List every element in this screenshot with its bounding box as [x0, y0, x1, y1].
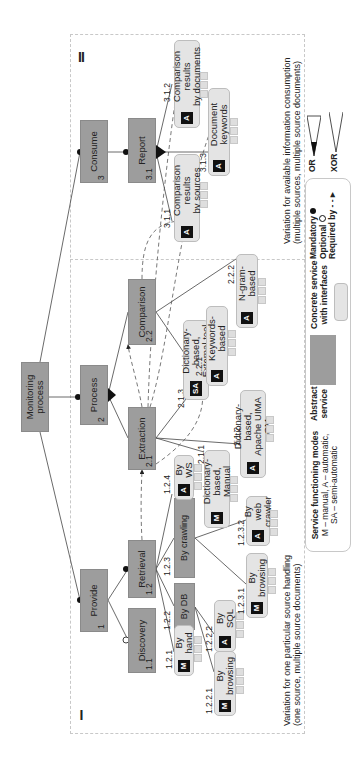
num-crawl-by-browsing: 1.2.3.1 — [236, 588, 246, 614]
service-retrieval: Retrieval 1.2 — [128, 540, 156, 598]
mode-badge: A — [247, 462, 259, 474]
concrete-doc-keywords: A Document keywords — [208, 88, 230, 176]
interfaces — [236, 612, 244, 638]
diagram-canvas: I II Variation for one particular source… — [0, 0, 360, 764]
mode-badge: SA — [190, 381, 202, 396]
concrete-ngram-based: A N-gram-based — [236, 254, 258, 328]
num-by-ws: 1.2.4 — [162, 475, 172, 494]
mode-badge: A — [181, 112, 193, 124]
legend-relations: Mandatory Optional Required by - - ▸ — [309, 192, 338, 259]
interfaces — [230, 118, 238, 144]
service-provide: Provide 1 — [80, 569, 108, 632]
service-report: Report 3.1 — [128, 118, 156, 183]
concrete-by-ws: A By WS — [174, 455, 194, 500]
legend-abstract: Abstract service — [310, 387, 329, 421]
concrete-keywords-based: A Keywords-based — [206, 306, 228, 386]
interfaces — [236, 668, 244, 694]
concrete-by-web-crawler: A By webcrawler — [246, 496, 270, 546]
service-process: Process 2 — [80, 365, 108, 425]
concrete-by-sql: A By SQL — [214, 600, 236, 652]
mode-badge: A — [241, 312, 253, 324]
concrete-crawl-by-browsing: M By browsing — [246, 553, 268, 618]
num-by-hand: 1.2.1 — [164, 650, 174, 669]
num-by-sql: 1.2.2.2 — [204, 626, 214, 652]
mode-badge: A — [252, 530, 264, 542]
legend-or: OR — [307, 159, 317, 172]
service-consume: Consume 3 — [80, 120, 108, 183]
mode-badge: A — [211, 370, 223, 382]
mode-badge: A — [213, 160, 225, 172]
service-by-crawling: By crawling — [174, 498, 195, 578]
legend-modes: Service functioning modes M – manual, A … — [311, 429, 340, 541]
mandatory-dot-icon — [310, 208, 316, 214]
mode-badge: M — [178, 660, 190, 672]
interfaces — [268, 568, 276, 594]
interfaces — [228, 330, 236, 356]
concrete-dict-manual: M Dictionary-based,Manual — [204, 450, 230, 528]
root-monitoring-process: Monitoring process — [21, 362, 49, 432]
mode-badge: A — [178, 484, 190, 496]
legend-abstract-swatch — [310, 335, 336, 385]
concrete-by-hand: M By hand — [174, 625, 194, 676]
required-arrow-icon: - - ▸ — [327, 192, 337, 207]
mode-badge: M — [211, 512, 223, 524]
legend-concrete-swatch — [334, 283, 348, 321]
mode-badge: A — [181, 226, 193, 238]
interfaces — [200, 72, 208, 98]
interfaces — [266, 416, 274, 442]
interfaces — [230, 476, 238, 502]
concrete-db-by-browsing: M By browsing — [214, 651, 236, 716]
num-by-db: 1.2.2 — [162, 611, 172, 630]
mode-badge: M — [219, 700, 231, 712]
num-ngram-based: 2.2.2 — [226, 265, 236, 284]
optional-circle-icon — [319, 215, 326, 222]
or-triangle-icon — [307, 96, 321, 156]
num-db-by-browsing: 1.2.2.1 — [204, 688, 214, 714]
concrete-cmp-by-sources: A Comparison resultsby sources — [174, 154, 200, 242]
service-by-db: By DB — [174, 583, 195, 630]
interfaces — [194, 636, 202, 662]
service-discovery: Discovery 1.1 — [128, 608, 156, 673]
num-keywords-based: 2.2.1 — [194, 357, 204, 376]
concrete-dict-uima: A Dictionary-based,Apache UIMA CM — [240, 390, 266, 478]
mode-badge: M — [251, 602, 263, 614]
service-comparison: Comparison 2.2 — [128, 279, 156, 345]
legend-concrete: Concrete service with interfaces — [310, 260, 329, 329]
legend-or-xor: OR XOR — [305, 56, 351, 176]
num-doc-keywords: 3.1.3 — [198, 153, 208, 172]
xor-triangle-icon — [329, 92, 343, 152]
interfaces — [258, 278, 266, 304]
service-extraction: Extraction 2.1 — [128, 407, 156, 470]
legend-xor: XOR — [329, 154, 339, 172]
interfaces — [270, 510, 278, 536]
interfaces — [200, 182, 208, 208]
num-by-crawling: 1.2.3 — [162, 557, 172, 576]
legend: Service functioning modes M – manual, A … — [305, 178, 351, 552]
mode-badge: A — [219, 636, 231, 648]
concrete-cmp-by-documents: A Comparison resultsby documents — [174, 40, 200, 128]
